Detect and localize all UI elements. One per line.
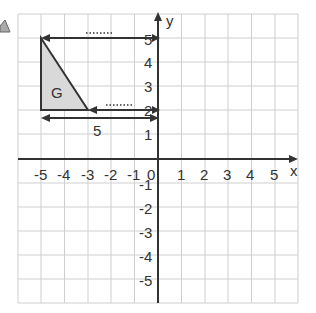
coordinate-plane: G 5 -5-4 -3-2 -10 12 34 5x y 54 32 1 bbox=[0, 0, 316, 313]
svg-text:-5: -5 bbox=[139, 272, 152, 289]
svg-text:-4: -4 bbox=[139, 248, 152, 265]
pencil-icon bbox=[0, 20, 10, 32]
svg-text:x: x bbox=[290, 162, 298, 179]
svg-text:4: 4 bbox=[144, 54, 152, 71]
svg-text:-2: -2 bbox=[104, 166, 117, 183]
svg-text:5: 5 bbox=[270, 166, 278, 183]
svg-text:-4: -4 bbox=[57, 166, 70, 183]
arrow-length-label: 5 bbox=[93, 122, 101, 139]
svg-text:-3: -3 bbox=[139, 224, 152, 241]
shape-g-label: G bbox=[51, 84, 63, 101]
svg-text:4: 4 bbox=[246, 166, 254, 183]
axes bbox=[18, 12, 298, 303]
svg-text:-5: -5 bbox=[34, 166, 47, 183]
svg-text:y: y bbox=[166, 12, 174, 29]
svg-text:3: 3 bbox=[223, 166, 231, 183]
svg-text:1: 1 bbox=[144, 126, 152, 143]
y-tick-labels: y 54 32 1 -1-2 -3-4 -5 bbox=[139, 12, 174, 289]
svg-text:1: 1 bbox=[177, 166, 185, 183]
svg-text:2: 2 bbox=[200, 166, 208, 183]
x-tick-labels: -5-4 -3-2 -10 12 34 5x bbox=[34, 162, 298, 183]
svg-text:3: 3 bbox=[144, 78, 152, 95]
svg-text:-2: -2 bbox=[139, 200, 152, 217]
dotted-blanks bbox=[86, 33, 134, 105]
svg-text:2: 2 bbox=[144, 102, 152, 119]
svg-text:-1: -1 bbox=[139, 176, 152, 193]
svg-text:5: 5 bbox=[144, 31, 152, 48]
svg-text:-3: -3 bbox=[81, 166, 94, 183]
